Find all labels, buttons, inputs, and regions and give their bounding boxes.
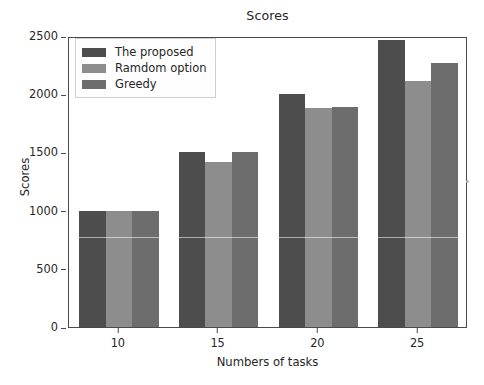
bar <box>378 40 405 328</box>
x-tick-mark <box>317 328 318 333</box>
bar <box>79 211 106 327</box>
x-tick: 15 <box>210 328 225 350</box>
y-tick-mark <box>61 269 66 270</box>
x-axis-label: Numbers of tasks <box>68 355 467 369</box>
legend-swatch <box>82 48 106 57</box>
bar <box>405 81 432 327</box>
bar <box>332 107 359 327</box>
bar <box>279 94 306 327</box>
x-tick: 10 <box>111 328 126 350</box>
bar <box>132 211 159 327</box>
bar <box>205 162 232 327</box>
x-tick-mark <box>417 328 418 333</box>
y-tick-mark <box>61 211 66 212</box>
chart-figure: Scores 05001000150020002500 10152025 Num… <box>0 0 484 385</box>
x-tick-mark <box>217 328 218 333</box>
x-tick: 20 <box>310 328 325 350</box>
bar <box>179 152 206 327</box>
legend-item: Greedy <box>82 76 207 92</box>
bar <box>305 108 332 327</box>
y-tick-mark <box>61 328 66 329</box>
y-tick-mark <box>61 37 66 38</box>
y-tick-mark <box>61 153 66 154</box>
x-tick-label: 15 <box>210 336 225 350</box>
x-tick: 25 <box>410 328 425 350</box>
legend-item: The proposed <box>82 44 207 60</box>
legend-label: Ramdom option <box>115 60 207 76</box>
x-tick-label: 10 <box>111 336 126 350</box>
bar <box>106 211 133 327</box>
legend-swatch <box>82 80 106 89</box>
image-speck-artifact <box>466 180 469 183</box>
y-tick-mark <box>61 95 66 96</box>
bar <box>232 152 259 327</box>
y-tick-label: 2500 <box>29 29 58 43</box>
y-axis-ticks: 05001000150020002500 <box>0 0 68 385</box>
y-tick-label: 1000 <box>29 204 58 218</box>
chart-title: Scores <box>68 8 467 23</box>
y-tick-label: 500 <box>36 262 58 276</box>
legend-label: Greedy <box>115 76 157 92</box>
chart-legend: The proposedRamdom optionGreedy <box>75 38 216 98</box>
x-tick-label: 25 <box>410 336 425 350</box>
legend-label: The proposed <box>115 44 194 60</box>
x-tick-label: 20 <box>310 336 325 350</box>
y-tick-label: 0 <box>51 320 58 334</box>
legend-swatch <box>82 64 106 73</box>
y-tick-label: 2000 <box>29 87 58 101</box>
x-tick-mark <box>117 328 118 333</box>
y-tick-label: 1500 <box>29 145 58 159</box>
legend-item: Ramdom option <box>82 60 207 76</box>
y-axis-label: Scores <box>18 117 32 237</box>
bar <box>431 63 458 327</box>
